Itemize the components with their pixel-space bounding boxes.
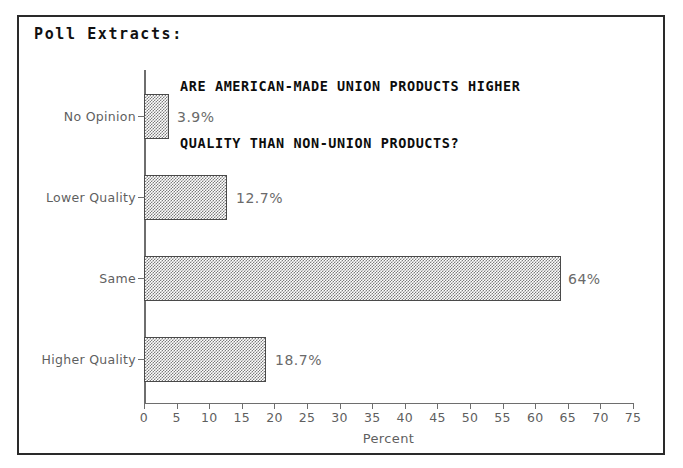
x-axis-tick-15 [242, 403, 243, 409]
x-axis-tick-25 [307, 403, 308, 409]
bar-no-opinion [144, 94, 169, 139]
bar-value-same: 64% [568, 271, 601, 287]
x-axis-tick-label-45: 45 [429, 410, 446, 425]
category-label-lower-quality: Lower Quality [38, 190, 136, 205]
x-axis-tick-40 [405, 403, 406, 409]
x-axis-tick-65 [568, 403, 569, 409]
x-axis-tick-30 [340, 403, 341, 409]
category-label-no-opinion: No Opinion [38, 109, 136, 124]
bar-lower-quality [144, 175, 227, 220]
x-axis-tick-label-75: 75 [625, 410, 642, 425]
poll-extract-panel: Poll Extracts: ARE AMERICAN-MADE UNION P… [17, 15, 665, 455]
x-axis-tick-label-50: 50 [462, 410, 479, 425]
x-axis-tick-label-25: 25 [299, 410, 316, 425]
x-axis-tick-label-10: 10 [201, 410, 218, 425]
x-axis-tick-60 [535, 403, 536, 409]
x-axis-tick-70 [600, 403, 601, 409]
x-axis-line [144, 403, 633, 404]
x-axis-tick-5 [177, 403, 178, 409]
bar-higher-quality [144, 337, 266, 382]
bar-value-lower-quality: 12.7% [236, 190, 283, 206]
bar-value-no-opinion: 3.9% [177, 109, 215, 125]
x-axis-tick-label-15: 15 [234, 410, 251, 425]
x-axis-tick-label-60: 60 [527, 410, 544, 425]
category-label-higher-quality: Higher Quality [38, 352, 136, 367]
x-axis-tick-label-65: 65 [560, 410, 577, 425]
x-axis-tick-10 [209, 403, 210, 409]
x-axis-tick-20 [274, 403, 275, 409]
category-tick-higher-quality [138, 359, 145, 360]
category-label-same: Same [38, 271, 136, 286]
category-tick-no-opinion [138, 116, 145, 117]
x-axis-tick-label-0: 0 [140, 410, 148, 425]
x-axis-tick-label-30: 30 [331, 410, 348, 425]
bar-same [144, 256, 561, 301]
x-axis-tick-label-5: 5 [172, 410, 180, 425]
x-axis-tick-55 [503, 403, 504, 409]
bar-value-higher-quality: 18.7% [275, 352, 322, 368]
x-axis-tick-label-70: 70 [592, 410, 609, 425]
x-axis-tick-75 [633, 403, 634, 409]
x-axis-tick-label-35: 35 [364, 410, 381, 425]
x-axis-tick-50 [470, 403, 471, 409]
x-axis-tick-35 [372, 403, 373, 409]
x-axis-tick-0 [144, 403, 145, 409]
bar-chart-plot: No Opinion 3.9% Lower Quality 12.7% Same… [19, 17, 667, 457]
category-tick-same [138, 278, 145, 279]
x-axis-tick-label-20: 20 [266, 410, 283, 425]
category-tick-lower-quality [138, 197, 145, 198]
x-axis-title: Percent [144, 431, 633, 446]
x-axis-tick-45 [437, 403, 438, 409]
x-axis-tick-label-55: 55 [494, 410, 511, 425]
x-axis-tick-label-40: 40 [397, 410, 414, 425]
